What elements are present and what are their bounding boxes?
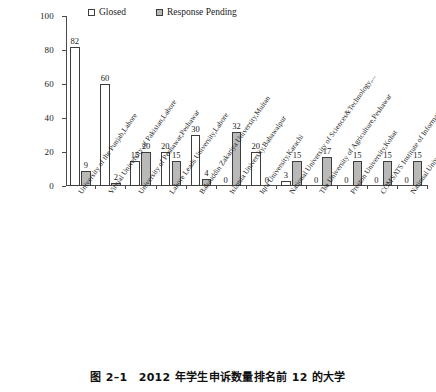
y-tick-label: 100 [14,12,54,21]
legend-swatch-pending-icon [156,9,163,16]
y-tick [62,118,66,119]
bar-value-label: 60 [97,74,113,83]
figure-container: Glosed Response Pending 020406080100 829… [0,0,436,392]
y-tick-label: 20 [14,148,54,157]
legend-swatch-closed-icon [88,9,95,16]
bar-closed [100,84,110,186]
y-tick-label: 40 [14,114,54,123]
bar-value-label: 82 [67,37,83,46]
x-axis-label-group: University of the Punjab,LahoreVirtual U… [0,186,436,356]
y-tick-label: 60 [14,80,54,89]
y-tick-label: 80 [14,46,54,55]
y-tick [62,50,66,51]
y-tick [62,84,66,85]
bar-group: 829 [70,16,91,186]
figure-caption: 图 2–1 2012 年学生申诉数量排名前 12 的大学 [0,368,436,384]
y-tick [62,16,66,17]
y-tick [62,152,66,153]
